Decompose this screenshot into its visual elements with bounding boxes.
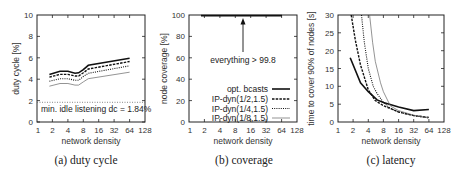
- everything-annotation: everything > 99.8: [210, 55, 276, 65]
- x-tick-label: 4: [218, 126, 223, 135]
- x-tick-label: 64: [424, 126, 433, 135]
- x-tick-label: 8: [381, 126, 386, 135]
- x-axis-label: network density: [61, 136, 121, 146]
- x-tick-label: 8: [81, 126, 86, 135]
- y-tick-label: 10: [325, 82, 334, 91]
- y-tick-label: 10: [24, 11, 33, 20]
- y-tick-label: 100: [172, 11, 186, 20]
- series-ip-dyn-1-2: [49, 62, 129, 78]
- y-axis-label: time to cover 90% of nodes [s]: [306, 11, 316, 125]
- caption-duty-cycle: (a) duty cycle: [54, 154, 117, 167]
- chart-coverage: 0 20 40 60 80 100 1 2 4 8 16 32 64 128 n…: [159, 11, 304, 146]
- chart-latency: 0 5 10 15 20 25 30 1 2 4 8 16 32 64 128 …: [306, 11, 451, 146]
- series-opt-bcasts: [49, 58, 129, 74]
- y-tick-label: 0: [29, 118, 34, 127]
- legend-label: IP-dyn(1/8,1.5): [212, 113, 268, 123]
- series-opt-bcasts: [350, 58, 429, 111]
- caption-latency: (c) latency: [367, 154, 416, 167]
- y-tick-label: 60: [176, 54, 185, 63]
- x-tick-label: 32: [409, 126, 418, 135]
- x-tick-label: 64: [277, 126, 286, 135]
- x-tick-label: 8: [233, 126, 238, 135]
- x-tick-label: 128: [437, 126, 451, 135]
- y-tick-label: 5: [330, 100, 335, 109]
- y-tick-label: 20: [325, 47, 334, 56]
- caption-coverage: (b) coverage: [215, 154, 273, 167]
- y-tick-label: 4: [29, 75, 34, 84]
- x-tick-label: 16: [94, 126, 103, 135]
- x-tick-label: 2: [202, 126, 207, 135]
- y-tick-label: 0: [181, 118, 186, 127]
- x-tick-label: 16: [246, 126, 255, 135]
- arrow-up-icon: [241, 18, 246, 25]
- y-tick-label: 6: [29, 54, 34, 63]
- x-tick-label: 16: [394, 126, 403, 135]
- legend-label: IP-dyn(1/2,1.5): [212, 94, 268, 104]
- legend-label: IP-dyn(1/4,1.5): [212, 104, 268, 114]
- x-tick-label: 128: [290, 126, 304, 135]
- x-tick-label: 1: [36, 126, 41, 135]
- min-idle-annotation: min. idle listening dc = 1.84%: [41, 104, 152, 114]
- y-axis-label: duty cycle [%]: [11, 42, 21, 94]
- x-tick-label: 2: [351, 126, 356, 135]
- legend-label: opt. bcasts: [227, 84, 268, 94]
- y-axis-label: node coverage [%]: [159, 33, 169, 104]
- x-tick-label: 1: [336, 126, 341, 135]
- x-tick-label: 1: [188, 126, 193, 135]
- x-tick-label: 64: [125, 126, 134, 135]
- y-tick-label: 0: [330, 118, 335, 127]
- x-axis-label: network density: [361, 136, 421, 146]
- x-tick-label: 128: [138, 126, 152, 135]
- x-tick-label: 2: [50, 126, 55, 135]
- y-tick-label: 20: [176, 97, 185, 106]
- x-axis-label: network density: [213, 136, 273, 146]
- y-tick-label: 30: [325, 11, 334, 20]
- y-tick-label: 2: [29, 97, 34, 106]
- legend: opt. bcasts IP-dyn(1/2,1.5) IP-dyn(1/4,1…: [212, 84, 290, 123]
- y-tick-label: 80: [176, 32, 185, 41]
- x-tick-label: 32: [110, 126, 119, 135]
- chart-duty-cycle: 0 2 4 6 8 10 1 2 4 8 16 32 64 128 networ…: [11, 11, 152, 146]
- x-tick-label: 32: [262, 126, 271, 135]
- y-tick-label: 15: [325, 65, 334, 74]
- x-tick-label: 4: [66, 126, 71, 135]
- y-tick-label: 8: [29, 32, 34, 41]
- y-tick-label: 25: [325, 29, 334, 38]
- figure: 0 2 4 6 8 10 1 2 4 8 16 32 64 128 networ…: [0, 0, 464, 174]
- x-tick-label: 4: [366, 126, 371, 135]
- y-tick-label: 40: [176, 75, 185, 84]
